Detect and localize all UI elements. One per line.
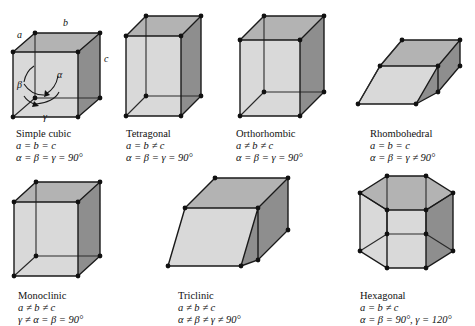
triclinic-diagram — [150, 168, 310, 290]
cell-angle-relation: α = β = γ = 90° — [16, 152, 83, 164]
unit-cell-orthorhombic: Orthorhombic a ≠ b ≠ c α = β = γ = 90° — [232, 0, 357, 165]
unit-cell-monoclinic: Monoclinic a ≠ b ≠ c γ ≠ α = β = 90° — [0, 168, 130, 326]
unit-cell-tetragonal: Tetragonal a = b ≠ c α = β = γ = 90° — [118, 0, 233, 165]
cell-angle-relation: α = β = γ = 90° — [126, 152, 193, 164]
tetragonal-diagram — [118, 0, 233, 128]
cell-name: Tetragonal — [126, 128, 193, 140]
front-face — [240, 40, 300, 116]
alpha-label: α — [57, 69, 63, 80]
cell-angle-relation: α = β = γ ≠ 90° — [370, 152, 435, 164]
cell-name: Simple cubic — [16, 128, 83, 140]
unit-cell-hexagonal: Hexagonal a = b ≠ c α = β = 90°, γ = 120… — [340, 168, 475, 326]
a-label: a — [17, 29, 22, 40]
caption-hexagonal: Hexagonal a = b ≠ c α = β = 90°, γ = 120… — [360, 290, 452, 326]
cell-edge-relation: a ≠ b ≠ c — [18, 302, 83, 314]
cell-edge-relation: a ≠ b ≠ c — [178, 302, 241, 314]
caption-monoclinic: Monoclinic a ≠ b ≠ c γ ≠ α = β = 90° — [18, 290, 83, 326]
simple-cubic-diagram: α β γ a b c — [0, 0, 120, 128]
rhombohedral-diagram — [350, 0, 475, 128]
crystal-systems-figure: α β γ a b c Simple cubic a = b = c α = β… — [0, 0, 475, 326]
cell-edge-relation: a = b ≠ c — [126, 140, 193, 152]
front-face — [13, 52, 78, 117]
cell-angle-relation: γ ≠ α = β = 90° — [18, 314, 83, 326]
caption-orthorhombic: Orthorhombic a ≠ b ≠ c α = β = γ = 90° — [236, 128, 303, 164]
cell-name: Triclinic — [178, 290, 241, 302]
cell-angle-relation: α ≠ β ≠ γ ≠ 90° — [178, 314, 241, 326]
unit-cell-simple-cubic: α β γ a b c Simple cubic a = b = c α = β… — [0, 0, 120, 165]
cell-edge-relation: a ≠ b ≠ c — [236, 140, 303, 152]
hexagonal-diagram — [340, 168, 475, 290]
monoclinic-diagram — [0, 168, 130, 290]
unit-cell-rhombohedral: Rhombohedral a = b = c α = β = γ ≠ 90° — [350, 0, 475, 165]
cell-name: Hexagonal — [360, 290, 452, 302]
cell-name: Orthorhombic — [236, 128, 303, 140]
front-center-face — [387, 210, 426, 268]
cell-edge-relation: a = b ≠ c — [360, 302, 452, 314]
front-face — [126, 36, 181, 116]
cell-edge-relation: a = b = c — [370, 140, 435, 152]
cell-name: Rhombohedral — [370, 128, 435, 140]
orthorhombic-diagram — [232, 0, 357, 128]
cell-edge-relation: a = b = c — [16, 140, 83, 152]
c-label: c — [104, 53, 109, 64]
caption-triclinic: Triclinic a ≠ b ≠ c α ≠ β ≠ γ ≠ 90° — [178, 290, 241, 326]
caption-tetragonal: Tetragonal a = b ≠ c α = β = γ = 90° — [126, 128, 193, 164]
beta-label: β — [16, 79, 22, 90]
cell-angle-relation: α = β = γ = 90° — [236, 152, 303, 164]
caption-simple-cubic: Simple cubic a = b = c α = β = γ = 90° — [16, 128, 83, 164]
front-face — [14, 202, 78, 276]
cell-angle-relation: α = β = 90°, γ = 120° — [360, 314, 452, 326]
unit-cell-triclinic: Triclinic a ≠ b ≠ c α ≠ β ≠ γ ≠ 90° — [150, 168, 310, 326]
cell-name: Monoclinic — [18, 290, 83, 302]
b-label: b — [63, 17, 68, 28]
caption-rhombohedral: Rhombohedral a = b = c α = β = γ ≠ 90° — [370, 128, 435, 164]
